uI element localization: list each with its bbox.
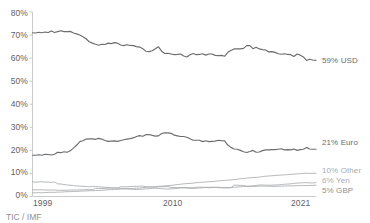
series-label-euro: 21% Euro xyxy=(322,138,358,147)
series-label-yen: 6% Yen xyxy=(322,176,350,185)
series-label-other: 10% Other xyxy=(322,166,361,175)
source-note: TIC / IMF xyxy=(6,212,41,222)
plot-area xyxy=(0,0,370,223)
currency-reserve-share-chart: 80% 70% 60% 50% 40% 30% 20% 10% 0% 1999 … xyxy=(0,0,370,223)
series-line-usd xyxy=(33,31,317,61)
series-line-yen xyxy=(33,182,317,190)
series-lines xyxy=(33,31,317,193)
series-line-euro xyxy=(33,133,317,155)
series-label-usd: 59% USD xyxy=(322,56,358,65)
axis-lines xyxy=(30,12,317,197)
series-label-gbp: 5% GBP xyxy=(322,186,353,195)
